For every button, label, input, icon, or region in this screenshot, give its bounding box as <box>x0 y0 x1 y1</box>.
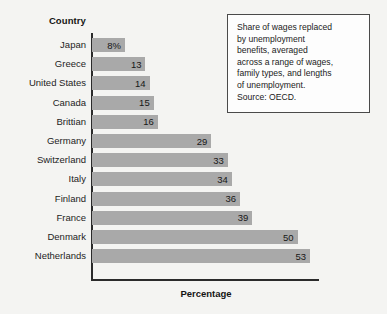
category-label: Canada <box>0 97 86 108</box>
x-axis-line <box>91 279 319 281</box>
x-axis-title: Percentage <box>91 288 321 299</box>
bar <box>92 249 310 263</box>
bar-row: Netherlands53 <box>91 248 321 267</box>
category-label: Italy <box>0 173 86 184</box>
annotation-box: Share of wages replaced by unemployment … <box>227 14 370 113</box>
bar-row: Brittian16 <box>91 114 321 133</box>
bar-value-label: 29 <box>185 136 207 147</box>
bar-value-label: 50 <box>272 232 294 243</box>
category-label: Finland <box>0 193 86 204</box>
bar-value-label: 33 <box>202 155 224 166</box>
bar <box>92 230 298 244</box>
bar-value-label: 34 <box>206 174 228 185</box>
category-label: United States <box>0 77 86 88</box>
bar-value-label: 53 <box>284 251 306 262</box>
category-label: Greece <box>0 58 86 69</box>
bar-value-label: 8% <box>99 40 121 51</box>
bar-row: Germany29 <box>91 133 321 152</box>
category-label: Netherlands <box>0 250 86 261</box>
category-label: Germany <box>0 135 86 146</box>
bar-value-label: 36 <box>214 193 236 204</box>
bar-chart-figure: Country Japan8%Greece13United States14Ca… <box>0 0 387 314</box>
bar-row: Italy34 <box>91 171 321 190</box>
bar-row: France39 <box>91 210 321 229</box>
annotation-text: Share of wages replaced by unemployment … <box>237 22 361 103</box>
category-label: France <box>0 212 86 223</box>
bar-row: Finland36 <box>91 191 321 210</box>
bar-value-label: 15 <box>128 97 150 108</box>
category-label: Switzerland <box>0 154 86 165</box>
bar-value-label: 14 <box>124 78 146 89</box>
bar-value-label: 39 <box>226 212 248 223</box>
bar-value-label: 16 <box>132 116 154 127</box>
bar-value-label: 13 <box>119 59 141 70</box>
category-label: Japan <box>0 39 86 50</box>
y-axis-title: Country <box>0 15 86 26</box>
category-label: Brittian <box>0 116 86 127</box>
category-label: Denmark <box>0 231 86 242</box>
bar-row: Switzerland33 <box>91 152 321 171</box>
bar-row: Denmark50 <box>91 229 321 248</box>
